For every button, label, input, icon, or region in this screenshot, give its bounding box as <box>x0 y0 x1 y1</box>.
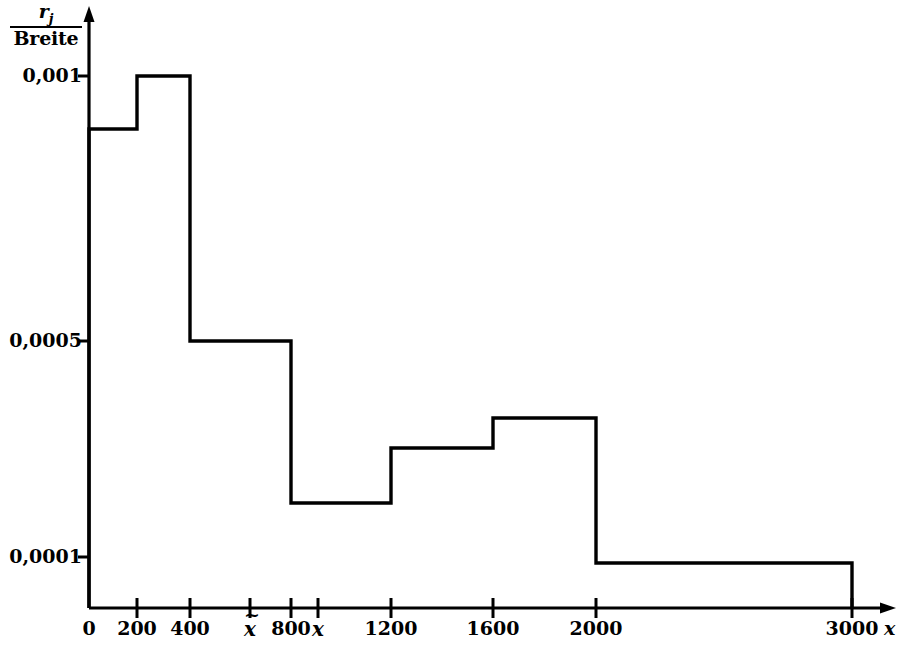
histogram-bars <box>89 76 852 608</box>
x-axis-arrowhead <box>880 603 896 614</box>
histogram-figure: rj Breite 0,001 0,0005 0,0001 0 200 400 … <box>0 0 904 645</box>
histogram-outline-path <box>89 76 852 608</box>
histogram-plot <box>0 0 904 645</box>
axes <box>84 6 897 614</box>
y-axis-arrowhead <box>84 6 95 22</box>
